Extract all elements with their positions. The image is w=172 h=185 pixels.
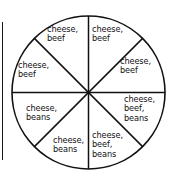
sector-label-top-right: cheese, beef	[92, 25, 136, 44]
sector-label-bottom-right: cheese, beef, beans	[92, 131, 132, 159]
sector-label-right-lower: cheese, beef, beans	[124, 95, 166, 123]
sector-diagram: cheese, beef cheese, beef cheese, beef, …	[0, 0, 172, 185]
sector-label-right-upper: cheese, beef	[120, 57, 164, 76]
sector-label-top-left: cheese, beef	[47, 25, 91, 44]
sector-label-left-lower: cheese, beans	[26, 104, 72, 123]
sector-label-bottom-left: cheese, beans	[53, 136, 95, 155]
sector-label-left-upper: cheese, beef	[18, 61, 64, 80]
